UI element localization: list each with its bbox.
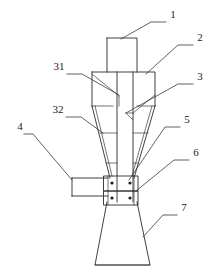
leader-line-3: [126, 84, 193, 113]
technical-drawing-canvas: 1 2 3 31 32 4 5 6 7: [0, 0, 220, 276]
callout-label-3: 3: [197, 70, 203, 82]
callout-label-5: 5: [184, 113, 190, 125]
callout-label-7: 7: [181, 201, 187, 213]
leader-line-2: [146, 45, 193, 74]
leader-line-7: [143, 215, 177, 237]
leader-line-31: [67, 74, 119, 95]
leader-line-1: [121, 22, 166, 39]
inner-deflector-part-3: [126, 95, 155, 120]
callout-label-32: 32: [53, 103, 64, 115]
callout-labels: 1 2 3 31 32 4 5 6 7: [17, 8, 203, 213]
callout-label-4: 4: [17, 120, 23, 132]
side-inlet-duct-part-4: [72, 178, 108, 196]
callout-label-1: 1: [170, 8, 176, 20]
flange-bolt-dots: [110, 181, 131, 199]
inlet-duct-part-1: [107, 38, 137, 72]
leader-line-4: [24, 134, 72, 180]
leader-line-5: [129, 127, 180, 180]
callout-label-6: 6: [193, 146, 199, 158]
leader-line-6: [136, 160, 189, 191]
callout-label-2: 2: [197, 31, 203, 43]
patent-figure: 1 2 3 31 32 4 5 6 7: [0, 0, 220, 276]
outer-cone-body: [92, 106, 155, 178]
callout-label-31: 31: [54, 60, 65, 72]
upper-barrel-part-2: [92, 72, 155, 106]
leader-line-32: [66, 117, 103, 133]
inner-cone-part-31: [92, 74, 119, 106]
discharge-skirt-part-7: [95, 202, 150, 265]
